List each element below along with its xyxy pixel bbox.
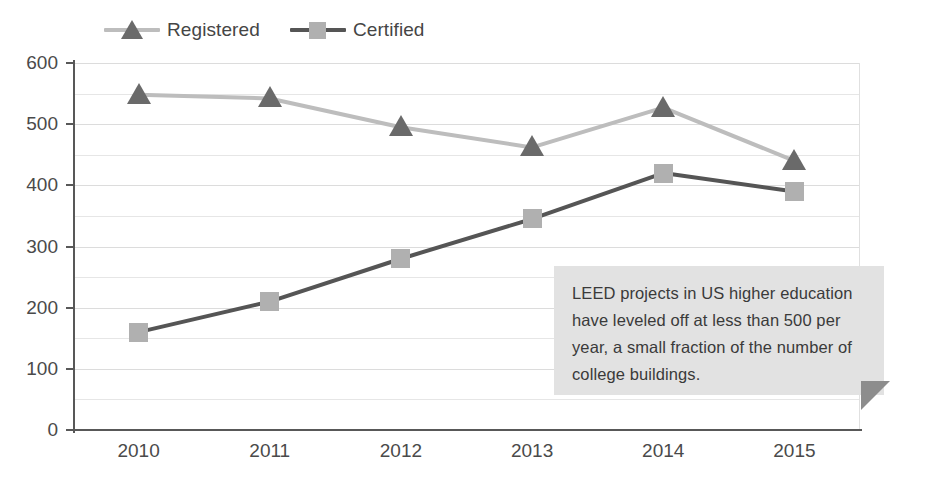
data-point-certified-2013	[523, 209, 542, 228]
legend-item-certified[interactable]: Certified	[290, 19, 425, 41]
data-point-registered-2010	[127, 83, 151, 104]
legend-label-registered: Registered	[167, 19, 260, 41]
y-axis-line	[73, 60, 75, 433]
data-point-certified-2012	[391, 249, 410, 268]
x-axis-line	[73, 429, 862, 431]
callout-tail-icon	[861, 381, 890, 410]
y-tick-label: 600	[0, 52, 58, 74]
certified-legend-swatch	[290, 19, 346, 41]
y-tick-label: 300	[0, 236, 58, 258]
gridline	[73, 247, 860, 248]
x-tick-label: 2011	[249, 440, 290, 462]
square-marker-icon	[309, 22, 326, 39]
gridline	[73, 399, 860, 400]
y-tick-label: 500	[0, 113, 58, 135]
y-tick-label: 100	[0, 358, 58, 380]
data-point-certified-2010	[129, 323, 148, 342]
data-point-certified-2011	[260, 292, 279, 311]
gridline	[73, 94, 860, 95]
y-tick-mark	[66, 429, 73, 431]
chart-figure: Registered Certified 0100200300400500600…	[0, 0, 935, 488]
data-point-registered-2014	[651, 96, 675, 117]
x-tick-label: 2010	[117, 440, 159, 462]
data-point-registered-2012	[389, 115, 413, 136]
data-point-certified-2014	[654, 164, 673, 183]
y-tick-mark	[66, 123, 73, 125]
registered-legend-swatch	[104, 19, 160, 41]
y-tick-mark	[66, 368, 73, 370]
callout-box: LEED projects in US higher education hav…	[554, 266, 884, 395]
y-tick-label: 200	[0, 297, 58, 319]
gridline	[73, 216, 860, 217]
callout-text: LEED projects in US higher education hav…	[572, 280, 866, 388]
y-tick-label: 400	[0, 174, 58, 196]
data-point-registered-2011	[258, 86, 282, 107]
data-point-registered-2015	[782, 149, 806, 170]
gridline	[73, 185, 860, 186]
legend-item-registered[interactable]: Registered	[104, 19, 260, 41]
legend-label-certified: Certified	[353, 19, 425, 41]
triangle-marker-icon	[121, 20, 143, 39]
y-tick-mark	[66, 307, 73, 309]
data-point-certified-2015	[785, 182, 804, 201]
gridline	[73, 155, 860, 156]
x-tick-label: 2012	[380, 440, 422, 462]
gridline	[73, 124, 860, 125]
x-tick-label: 2015	[773, 440, 815, 462]
gridline	[73, 63, 860, 64]
y-tick-mark	[66, 184, 73, 186]
y-tick-mark	[66, 246, 73, 248]
x-tick-label: 2014	[642, 440, 684, 462]
chart-legend: Registered Certified	[104, 16, 425, 44]
y-tick-mark	[66, 62, 73, 64]
data-point-registered-2013	[520, 135, 544, 156]
y-tick-label: 0	[0, 419, 58, 441]
x-tick-label: 2013	[511, 440, 553, 462]
